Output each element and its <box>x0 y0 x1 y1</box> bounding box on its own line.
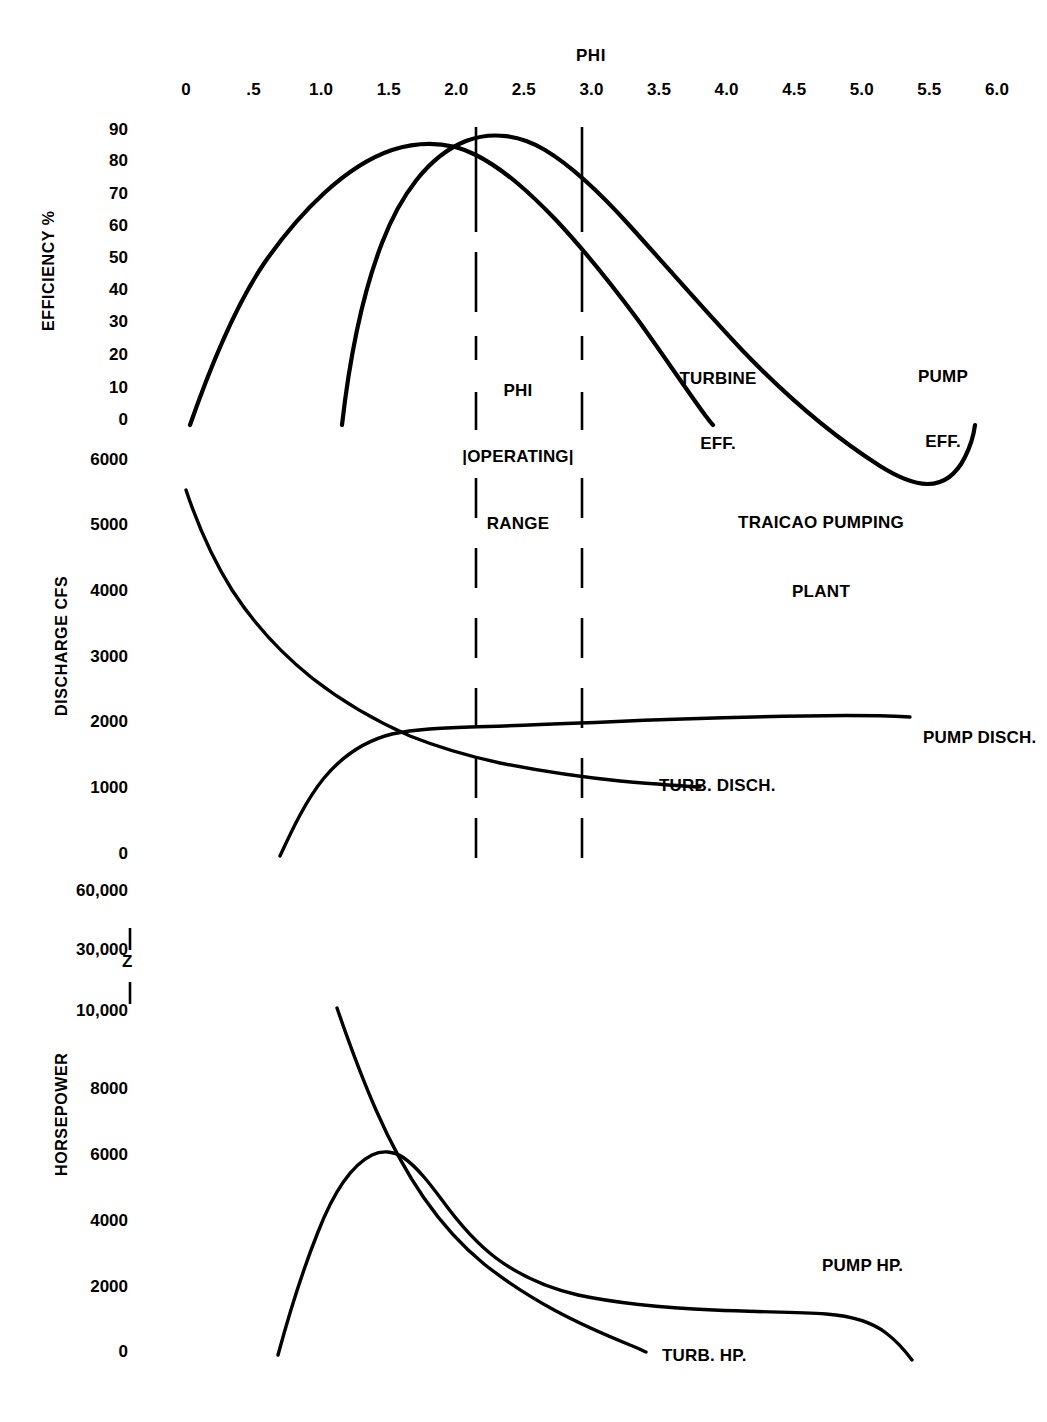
operating-range-line-1: PHI <box>458 380 578 402</box>
curve-turbine-eff <box>190 144 713 425</box>
series-label-pump-hp: PUMP HP. <box>822 1255 903 1277</box>
operating-range-label: PHI |OPERATING| RANGE <box>458 336 578 579</box>
plant-title: TRAICAO PUMPING PLANT <box>706 466 936 650</box>
operating-range-line-3: RANGE <box>458 513 578 535</box>
curves-layer <box>0 0 1047 1422</box>
series-label-turb-disch: TURB. DISCH. <box>659 775 776 797</box>
series-label-pump-disch: PUMP DISCH. <box>923 727 1036 749</box>
turbine-eff-line-1: TURBINE <box>663 368 773 390</box>
performance-chart: PHI 0.51.01.52.02.53.03.54.04.55.05.56.0… <box>0 0 1047 1422</box>
curve-pump-disch <box>280 716 910 856</box>
curve-pump-eff <box>342 135 975 484</box>
plant-title-line-2: PLANT <box>706 581 936 604</box>
operating-range-line-2: |OPERATING| <box>458 446 578 468</box>
series-label-turb-hp: TURB. HP. <box>662 1345 747 1367</box>
pump-eff-line-1: PUMP <box>898 366 988 388</box>
curve-turb-disch <box>186 490 700 787</box>
pump-eff-line-2: EFF. <box>898 431 988 453</box>
turbine-eff-line-2: EFF. <box>663 433 773 455</box>
plant-title-line-1: TRAICAO PUMPING <box>706 512 936 535</box>
